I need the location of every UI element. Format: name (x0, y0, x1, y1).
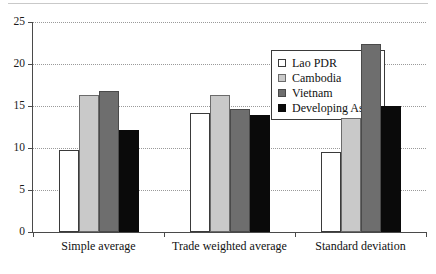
x-axis-line (32, 232, 426, 233)
bar (119, 130, 139, 232)
x-axis-label: Trade weighted average (172, 240, 287, 252)
plot-area: 0510152025 Simple averageTrade weighted … (32, 22, 426, 232)
legend-swatch-cambodia (278, 74, 286, 82)
legend-swatch-vietnam (278, 89, 286, 97)
bar (361, 44, 381, 232)
legend-swatch-lao-pdr (278, 59, 286, 67)
top-rule (8, 3, 428, 4)
y-tick-mark (28, 22, 32, 23)
bars-layer (33, 22, 426, 232)
bar (99, 91, 119, 232)
y-tick-mark (28, 232, 32, 233)
x-axis-label: Simple average (61, 240, 135, 252)
bar (381, 106, 401, 232)
x-axis-separator (426, 232, 427, 237)
chart-figure: 0510152025 Simple averageTrade weighted … (0, 0, 436, 274)
bar (190, 113, 210, 232)
y-tick-label: 15 (14, 100, 26, 112)
legend-label-cambodia: Cambodia (292, 72, 341, 84)
x-axis-separator (164, 232, 165, 237)
y-tick-label: 5 (19, 184, 25, 196)
legend-label-vietnam: Vietnam (292, 87, 333, 99)
y-tick-label: 0 (19, 226, 25, 238)
y-tick-mark (28, 148, 32, 149)
legend-swatch-developing-asia (278, 104, 286, 112)
y-tick-label: 25 (14, 16, 26, 28)
bar (341, 118, 361, 232)
y-tick-mark (28, 106, 32, 107)
bar (250, 115, 270, 232)
x-axis-separator (295, 232, 296, 237)
bar (210, 95, 230, 232)
x-axis-separator (33, 232, 34, 237)
x-axis-label: Standard deviation (315, 240, 405, 252)
bar (230, 109, 250, 232)
y-tick-mark (28, 64, 32, 65)
bar (59, 150, 79, 232)
y-tick-label: 20 (14, 58, 26, 70)
y-tick-label: 10 (14, 142, 26, 154)
bar (321, 152, 341, 232)
legend-label-lao-pdr: Lao PDR (292, 57, 337, 69)
bar (79, 95, 99, 232)
y-tick-mark (28, 190, 32, 191)
